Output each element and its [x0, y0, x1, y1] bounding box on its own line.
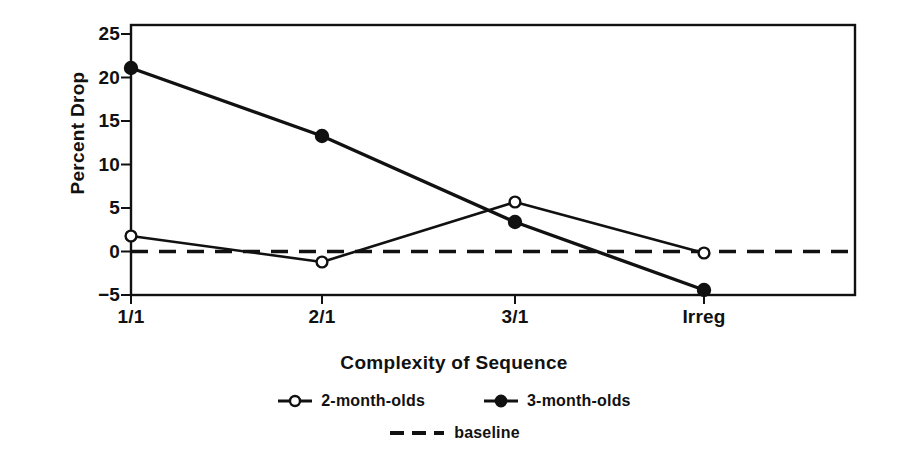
x-tick-label-3: 3/1 [455, 306, 575, 328]
chart-legend: 2-month-olds 3-month-olds [0, 392, 908, 456]
chart-figure: Percent Drop 25 20 15 10 5 0 −5 [0, 0, 908, 468]
legend-label-3-month-olds: 3-month-olds [527, 392, 631, 410]
x-tick-label-1: 1/1 [71, 306, 191, 328]
filled-circle-marker-icon [483, 393, 519, 409]
x-tick-label-4: Irreg [644, 306, 764, 328]
open-circle-marker-icon [277, 393, 313, 409]
x-tick-label-2: 2/1 [262, 306, 382, 328]
x-tick-marks [131, 295, 704, 304]
legend-item-baseline: baseline [388, 424, 520, 442]
series-3-month-olds-line [131, 68, 704, 290]
legend-label-2-month-olds: 2-month-olds [321, 392, 425, 410]
legend-row-baseline: baseline [0, 424, 908, 442]
legend-row-series: 2-month-olds 3-month-olds [0, 392, 908, 410]
legend-item-2-month-olds: 2-month-olds [277, 392, 425, 410]
plot-area [0, 0, 908, 340]
legend-label-baseline: baseline [454, 424, 520, 442]
legend-item-3-month-olds: 3-month-olds [483, 392, 631, 410]
x-axis-title: Complexity of Sequence [0, 352, 908, 374]
plot-frame [131, 25, 855, 295]
dashed-line-icon [388, 425, 446, 441]
